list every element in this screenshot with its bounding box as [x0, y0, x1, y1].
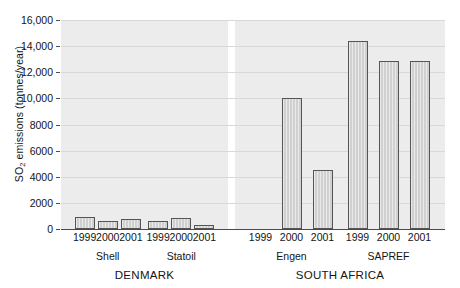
y-axis-tick-label: 12,000 [21, 66, 53, 78]
bar [148, 221, 168, 229]
group-label: Engen [276, 250, 306, 262]
group-label: Statoil [167, 250, 196, 262]
y-axis-tick-mark [56, 72, 60, 73]
y-axis-tick-label: 0 [47, 223, 53, 235]
x-axis-tick-label: 2001 [408, 231, 431, 243]
bar [171, 218, 191, 229]
y-axis-tick-label: 6000 [30, 145, 53, 157]
x-axis-tick-label: 2000 [96, 231, 119, 243]
x-axis-tick-label: 1999 [346, 231, 369, 243]
y-axis-tick-mark [56, 151, 60, 152]
x-axis-tick-label: 2001 [193, 231, 216, 243]
x-axis-tick-label: 1999 [249, 231, 272, 243]
gridline [61, 46, 445, 47]
y-axis-tick-label: 4000 [30, 171, 53, 183]
bar [379, 61, 399, 230]
gridline [61, 20, 445, 21]
bar [75, 217, 95, 229]
y-axis-tick-mark [56, 46, 60, 47]
y-axis-tick-mark [56, 229, 60, 230]
chart-figure: SO2 emissions (tonnes/year) 020004000600… [0, 0, 460, 288]
group-label: SAPREF [367, 250, 409, 262]
x-axis-tick-label: 2000 [280, 231, 303, 243]
y-axis-tick-mark [56, 125, 60, 126]
x-axis-tick-label: 2000 [170, 231, 193, 243]
bar [410, 61, 430, 229]
plot-area [61, 20, 445, 229]
bar [121, 219, 141, 229]
y-axis-tick-mark [56, 177, 60, 178]
x-axis-line [61, 229, 445, 230]
y-axis-tick-label: 16,000 [21, 14, 53, 26]
x-axis-tick-label: 2000 [377, 231, 400, 243]
x-axis-tick-label: 2001 [311, 231, 334, 243]
y-axis-tick-label: 2000 [30, 197, 53, 209]
bar [282, 98, 302, 229]
y-axis-tick-mark [56, 20, 60, 21]
y-axis-tick-mark [56, 98, 60, 99]
bar [313, 170, 333, 229]
y-axis-tick-label: 14,000 [21, 40, 53, 52]
y-axis-tick-labels: 0200040006000800010,00012,00014,00016,00… [0, 0, 57, 252]
country-label: SOUTH AFRICA [296, 269, 385, 281]
x-axis-tick-label: 1999 [73, 231, 96, 243]
bar [348, 41, 368, 229]
group-label: Shell [96, 250, 119, 262]
y-axis-tick-label: 10,000 [21, 92, 53, 104]
x-axis-tick-label: 2001 [119, 231, 142, 243]
y-axis-tick-label: 8000 [30, 119, 53, 131]
y-axis-tick-mark [56, 203, 60, 204]
bar [98, 221, 118, 229]
x-axis-tick-label: 1999 [146, 231, 169, 243]
x-axis-tick-labels: 1999200020011999200020011999200020011999… [61, 231, 445, 247]
country-label: DENMARK [115, 269, 175, 281]
